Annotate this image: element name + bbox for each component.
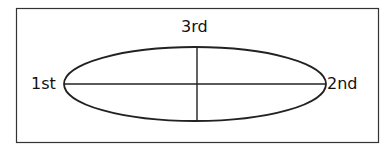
label-second: 2nd [327, 76, 357, 92]
label-first: 1st [31, 76, 56, 92]
label-third: 3rd [181, 19, 208, 35]
